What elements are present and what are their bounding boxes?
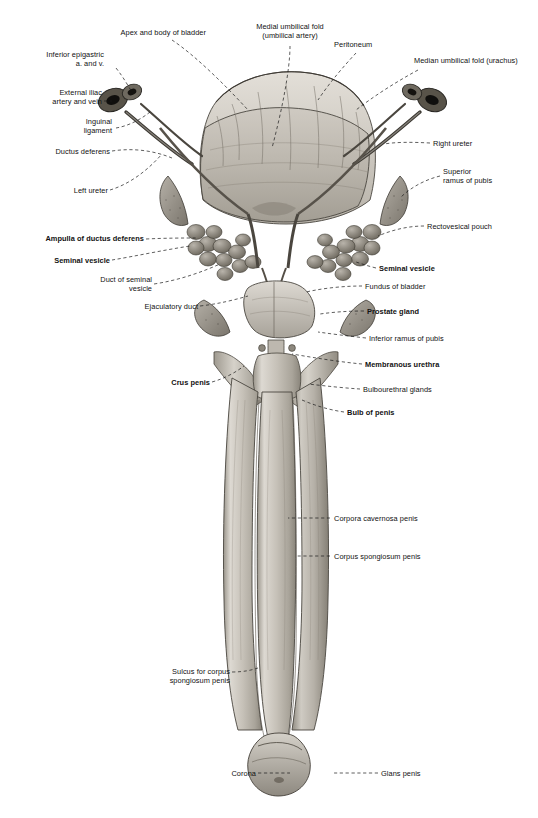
leader-ejaculatory-duct — [200, 296, 248, 306]
label-median-umbilical-fold: Median umbilical fold (urachus) — [414, 56, 518, 65]
label-left-ureter: Left ureter — [28, 186, 108, 195]
label-corona: Corona — [198, 769, 256, 778]
leader-seminal-vesicle-left — [112, 246, 190, 260]
label-ductus-deferens: Ductus deferens — [18, 147, 110, 156]
label-inguinal-ligament: Inguinal ligament — [24, 117, 112, 136]
leader-peritoneum — [318, 53, 356, 100]
label-inferior-epigastric: Inferior epigastric a. and v. — [14, 50, 104, 69]
leader-prostate-gland — [320, 311, 364, 314]
urethra-group — [259, 340, 296, 358]
leader-inferior-ramus — [318, 332, 366, 338]
leader-sulcus — [232, 668, 258, 672]
leader-inferior-epigastric — [116, 68, 132, 92]
leader-crus-penis — [212, 366, 244, 382]
label-crus-penis: Crus penis — [136, 378, 210, 387]
label-bulbourethral-glands: Bulbourethral glands — [363, 385, 432, 394]
label-seminal-vesicle-left: Seminal vesicle — [30, 256, 110, 265]
leader-ampulla — [146, 238, 196, 239]
leader-superior-ramus — [400, 176, 440, 198]
penis-shaft-group — [223, 378, 328, 740]
figure-canvas: Apex and body of bladder Medial umbilica… — [0, 0, 538, 818]
label-ampulla-of-ductus-deferens: Ampulla of ductus deferens — [10, 234, 144, 243]
label-duct-of-seminal-vesicle: Duct of seminal vesicle — [64, 275, 152, 294]
leader-left-ureter — [110, 154, 162, 190]
leader-rectovesical-pouch — [378, 226, 424, 236]
label-ejaculatory-duct: Ejaculatory duct — [104, 302, 198, 311]
label-membranous-urethra: Membranous urethra — [365, 360, 439, 369]
leader-seminal-vesicle-right — [356, 262, 376, 268]
leader-bulb-penis — [302, 400, 344, 412]
label-external-iliac: External iliac artery and vein — [8, 88, 102, 107]
label-corpus-spongiosum-penis: Corpus spongiosum penis — [334, 552, 421, 561]
label-bulb-of-penis: Bulb of penis — [347, 408, 394, 417]
bladder-group — [200, 72, 375, 224]
seminal-vesicles-group — [187, 202, 381, 292]
vessels-group — [95, 81, 450, 214]
label-glans-penis: Glans penis — [381, 769, 421, 778]
label-medial-umbilical-fold: Medial umbilical fold (umbilical artery) — [215, 22, 365, 41]
leader-fundus-bladder — [306, 286, 362, 292]
label-rectovesical-pouch: Rectovesical pouch — [427, 222, 492, 231]
glans-group — [248, 733, 311, 796]
label-right-ureter: Right ureter — [433, 139, 472, 148]
leader-ductus-deferens — [112, 150, 172, 158]
leader-duct-seminal-vesicle — [154, 264, 220, 284]
label-fundus-of-bladder: Fundus of bladder — [365, 282, 425, 291]
label-corpora-cavernosa-penis: Corpora cavernosa penis — [334, 514, 418, 523]
label-superior-ramus-of-pubis: Superior ramus of pubis — [443, 167, 492, 186]
label-peritoneum: Peritoneum — [334, 40, 372, 49]
label-inferior-ramus-of-pubis: Inferior ramus of pubis — [369, 334, 444, 343]
leader-medial-umbilical-fold — [272, 46, 290, 148]
leader-inguinal-ligament — [116, 112, 150, 128]
prostate-group — [244, 281, 315, 338]
label-prostate-gland: Prostate gland — [367, 307, 419, 316]
crura-bulb-group — [214, 352, 338, 408]
label-apex-and-body-of-bladder: Apex and body of bladder — [16, 28, 206, 37]
leader-lines — [104, 40, 440, 773]
leader-apex-body-bladder — [172, 40, 248, 110]
leader-membranous-urethra — [292, 354, 362, 364]
leader-right-ureter — [384, 142, 430, 144]
leader-median-umbilical-fold — [356, 70, 418, 110]
leader-bulbourethral — [308, 384, 360, 389]
label-sulcus-for-corpus-spongiosum-penis: Sulcus for corpus spongiosum penis — [138, 667, 230, 686]
label-seminal-vesicle-right: Seminal vesicle — [379, 264, 435, 273]
